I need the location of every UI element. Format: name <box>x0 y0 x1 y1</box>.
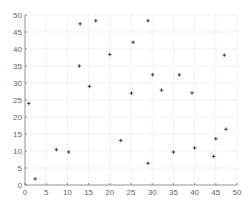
x-tick-label: 15 <box>84 188 93 197</box>
x-tick-label: 10 <box>63 188 72 197</box>
plus-marker-icon <box>151 73 155 77</box>
plus-marker-icon <box>119 139 123 143</box>
plus-marker-icon <box>193 146 197 150</box>
y-tick-label: 0 <box>18 181 23 190</box>
plus-marker-icon <box>27 102 31 106</box>
plus-marker-icon <box>94 19 98 23</box>
plus-marker-icon <box>88 85 92 89</box>
x-tick-label: 35 <box>169 188 178 197</box>
y-tick-label: 15 <box>13 130 22 139</box>
plus-marker-icon <box>178 73 182 77</box>
plus-marker-icon <box>130 91 134 95</box>
plus-marker-icon <box>190 91 194 95</box>
scatter-chart: 05101520253035404550 0510152025303540455… <box>0 0 252 205</box>
plus-marker-icon <box>222 53 226 57</box>
plus-marker-icon <box>108 53 112 57</box>
plus-marker-icon <box>78 22 82 26</box>
plus-marker-icon <box>131 40 135 44</box>
plus-marker-icon <box>160 88 164 92</box>
y-tick-label: 40 <box>13 45 22 54</box>
plus-marker-icon <box>33 177 37 181</box>
grid-lines <box>25 15 237 185</box>
plus-marker-icon <box>146 19 150 23</box>
y-tick-label: 50 <box>13 11 22 20</box>
x-tick-label: 50 <box>233 188 242 197</box>
plus-marker-icon <box>224 127 228 131</box>
y-tick-label: 10 <box>13 147 22 156</box>
y-tick-label: 20 <box>13 113 22 122</box>
x-tick-label: 5 <box>44 188 49 197</box>
y-tick-label: 45 <box>13 28 22 37</box>
plus-marker-icon <box>212 155 216 159</box>
x-tick-label: 25 <box>127 188 136 197</box>
x-tick-label: 20 <box>105 188 114 197</box>
x-tick-label: 45 <box>211 188 220 197</box>
y-tick-label: 30 <box>13 79 22 88</box>
plus-marker-icon <box>77 64 81 68</box>
x-tick-label: 40 <box>190 188 199 197</box>
y-tick-label: 5 <box>18 164 23 173</box>
y-tick-label: 35 <box>13 62 22 71</box>
x-tick-label: 30 <box>148 188 157 197</box>
plus-marker-icon <box>214 137 218 141</box>
plus-marker-icon <box>146 161 150 165</box>
x-tick-label: 0 <box>23 188 28 197</box>
y-tick-label: 25 <box>13 96 22 105</box>
